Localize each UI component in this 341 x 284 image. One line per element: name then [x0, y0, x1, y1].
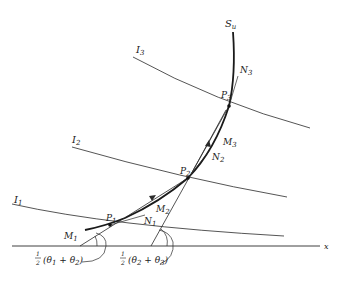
isoline-label-i1: I1 — [13, 194, 22, 207]
diagram-canvas: x I1 I2 I3 Su P1 P2 P3 M1 M2 M3 N1 N2 N3… — [0, 0, 341, 284]
su-label: Su — [225, 18, 237, 31]
svg-text:(θ1 + θ2): (θ1 + θ2) — [43, 255, 84, 267]
svg-text:1: 1 — [36, 250, 40, 257]
chord-label-m1: M1 — [63, 231, 78, 243]
su-curve — [85, 32, 234, 230]
svg-text:1: 1 — [121, 250, 125, 257]
svg-text:2: 2 — [120, 259, 125, 266]
isoline-label-i3: I3 — [135, 44, 145, 57]
x-axis-label: x — [324, 242, 329, 251]
arrow-icon — [205, 140, 211, 147]
arrow-icon — [149, 195, 156, 201]
chord-m1 — [80, 178, 188, 246]
chord-label-m2: M2 — [155, 204, 170, 216]
svg-text:(θ2 + θ3): (θ2 + θ3) — [128, 255, 169, 267]
normal-label-n2: N2 — [211, 152, 225, 164]
point-p3 — [227, 104, 231, 108]
chord-label-m3: M3 — [222, 137, 237, 149]
svg-text:2: 2 — [35, 259, 40, 266]
angle-label-2: 1 2 (θ2 + θ3) — [120, 250, 169, 267]
normal-label-n3: N3 — [239, 65, 253, 77]
normal-n2 — [188, 150, 210, 178]
angle-arc-1 — [95, 236, 97, 246]
normal-label-n1: N1 — [143, 216, 156, 228]
isoline-label-i2: I2 — [71, 134, 81, 147]
angle-label-1: 1 2 (θ1 + θ2) — [35, 250, 84, 267]
